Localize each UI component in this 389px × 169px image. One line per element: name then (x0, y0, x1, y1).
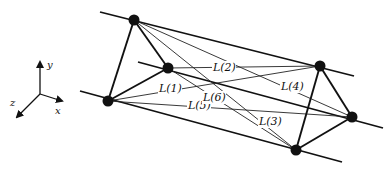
line-label: L(1) (158, 82, 182, 95)
connecting-line (168, 66, 320, 68)
node-F (291, 145, 302, 156)
node-C (103, 96, 114, 107)
node-D (315, 61, 326, 72)
y-axis-label: y (46, 59, 53, 70)
diagram-svg: xyz L(1)L(2)L(3)L(4)L(5)L(6) (0, 0, 389, 169)
node-B (163, 63, 174, 74)
diagram-canvas: xyz L(1)L(2)L(3)L(4)L(5)L(6) (0, 0, 389, 169)
z-axis-label: z (9, 97, 16, 108)
x-axis-label: x (55, 105, 61, 116)
node-E (347, 112, 358, 123)
triangle-edges (108, 20, 352, 150)
line-label: L(6) (202, 91, 226, 104)
line-label: L(4) (280, 80, 304, 93)
z-axis-arrow (17, 94, 40, 117)
nodes (103, 15, 358, 156)
parallel-lines (80, 12, 383, 162)
line-label: L(2) (212, 61, 236, 74)
node-A (129, 15, 140, 26)
x-axis-arrow (40, 94, 62, 101)
axis-indicator: xyz (9, 59, 62, 117)
line-label: L(3) (258, 115, 282, 128)
